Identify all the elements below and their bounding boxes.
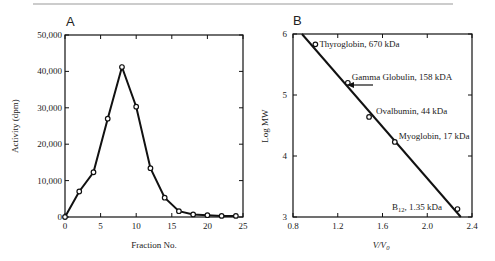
arrow-icon — [347, 82, 373, 88]
y-tick-label: 20,000 — [37, 139, 62, 149]
data-point — [234, 214, 239, 219]
y-tick-label: 50,000 — [37, 30, 62, 40]
data-point — [120, 65, 125, 70]
data-point — [77, 189, 82, 194]
figure: A 0510152025010,00020,00030,00040,00050,… — [0, 0, 495, 261]
label-thyroglobin: Thyroglobin, 670 kDa — [319, 39, 399, 49]
data-point — [134, 104, 139, 109]
panel-a-label: A — [66, 14, 75, 29]
data-point — [191, 212, 196, 217]
label-b12: B12, 1.35 kDa — [392, 202, 442, 213]
data-point — [177, 209, 182, 214]
data-point — [91, 170, 96, 175]
data-point — [105, 116, 110, 121]
y-tick-label: 30,000 — [37, 103, 62, 113]
label-gamma-globulin: Gamma Globulin, 158 kDA — [352, 72, 453, 82]
data-point — [205, 213, 210, 218]
x-tick-label: 2.0 — [422, 221, 434, 231]
x-tick-label: 2.4 — [466, 221, 478, 231]
panel-b-ylabel: Log MW — [260, 109, 270, 143]
x-tick-label: 1.2 — [332, 221, 343, 231]
y-tick-label: 0 — [58, 212, 63, 222]
panel-b-fit-line — [302, 34, 461, 217]
panel-b-xlabel: V/V0 — [373, 240, 391, 251]
data-point — [367, 115, 372, 120]
data-point — [162, 195, 167, 200]
panel-a-xlabel: Fraction No. — [131, 240, 177, 250]
x-tick-label: 10 — [132, 221, 142, 231]
panel-a-series-line — [65, 67, 236, 217]
data-point — [393, 140, 398, 145]
panel-b-points — [313, 42, 460, 211]
y-tick-label: 10,000 — [37, 176, 62, 186]
y-tick-label: 40,000 — [37, 66, 62, 76]
x-tick-label: 20 — [203, 221, 213, 231]
panel-b: B 0.81.21.62.02.43456 Thyroglobin, 670 k… — [260, 13, 478, 251]
x-tick-label: 0 — [63, 221, 68, 231]
y-tick-label: 6 — [283, 29, 288, 39]
y-tick-label: 4 — [283, 151, 288, 161]
data-point — [455, 207, 460, 212]
x-tick-label: 5 — [98, 221, 103, 231]
data-point — [63, 215, 68, 220]
x-tick-label: 0.8 — [287, 221, 299, 231]
x-tick-label: 25 — [239, 221, 249, 231]
panel-b-label: B — [293, 13, 302, 28]
x-tick-label: 15 — [167, 221, 177, 231]
label-myoglobin: Myoglobin, 17 kDa — [399, 131, 470, 141]
data-point — [219, 214, 224, 219]
y-tick-label: 5 — [283, 90, 288, 100]
x-tick-label: 1.6 — [377, 221, 389, 231]
panel-a: A 0510152025010,00020,00030,00040,00050,… — [10, 14, 248, 250]
panel-a-ylabel: Activity (dpm) — [10, 99, 20, 153]
data-point — [148, 166, 153, 171]
y-tick-label: 3 — [283, 212, 288, 222]
label-ovalbumin: Ovalbumin, 44 kDa — [376, 106, 447, 116]
data-point — [313, 42, 318, 47]
panel-a-points — [63, 65, 238, 220]
panel-a-frame — [65, 35, 243, 217]
